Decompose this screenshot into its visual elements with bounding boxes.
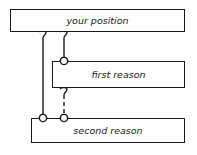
node-first-reason: first reason (52, 61, 185, 88)
argument-diagram: your position first reason second reason (0, 0, 197, 155)
hook-icon (60, 88, 67, 95)
node-second-reason: second reason (31, 118, 185, 143)
node-label: second reason (73, 125, 142, 136)
node-label: first reason (91, 69, 145, 80)
node-label: your position (66, 15, 128, 26)
node-your-position: your position (10, 9, 185, 32)
